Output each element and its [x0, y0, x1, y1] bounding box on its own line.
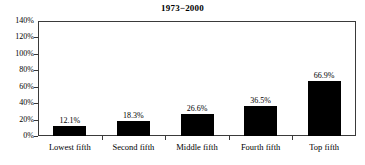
chart-title: 1973−2000 — [0, 3, 365, 14]
y-axis-tick-label: 120% — [0, 33, 34, 41]
bar-group: 26.6% — [181, 21, 214, 136]
y-axis-tick-label: 0% — [0, 132, 34, 140]
bar-group: 36.5% — [244, 21, 277, 136]
bar — [181, 114, 214, 136]
x-axis-tick-mark — [292, 136, 293, 140]
x-axis-category-label: Lowest fifth — [38, 142, 102, 153]
bar-value-label: 26.6% — [187, 104, 208, 113]
y-axis-tick-label: 140% — [0, 17, 34, 25]
y-axis-tick-labels: 0%20%40%60%80%100%120%140% — [0, 21, 34, 136]
y-axis-tick-label: 40% — [0, 99, 34, 107]
bar-value-label: 36.5% — [250, 96, 271, 105]
x-axis-category-label: Top fifth — [292, 142, 356, 153]
x-axis-category-label: Second fifth — [102, 142, 166, 153]
x-axis-category-labels: Lowest fifthSecond fifthMiddle fifthFour… — [38, 142, 356, 156]
bar-chart: 1973−2000 0%20%40%60%80%100%120%140% 12.… — [0, 0, 365, 165]
bar-group: 66.9% — [308, 21, 341, 136]
bar-group: 18.3% — [117, 21, 150, 136]
x-axis-tick-mark — [165, 136, 166, 140]
x-axis-tick-mark — [229, 136, 230, 140]
x-axis-tick-mark — [102, 136, 103, 140]
bar-value-label: 12.1% — [59, 116, 80, 125]
bars-layer: 12.1%18.3%26.6%36.5%66.9% — [38, 21, 356, 136]
y-axis-tick-label: 100% — [0, 50, 34, 58]
bar — [53, 126, 86, 136]
y-axis-tick-label: 80% — [0, 66, 34, 74]
x-axis-tick-marks — [38, 136, 356, 140]
x-axis-category-label: Fourth fifth — [229, 142, 293, 153]
x-axis-category-label: Middle fifth — [165, 142, 229, 153]
bar — [117, 121, 150, 136]
y-axis-tick-label: 20% — [0, 116, 34, 124]
bar-value-label: 66.9% — [314, 71, 335, 80]
bar-group: 12.1% — [53, 21, 86, 136]
bar — [308, 81, 341, 136]
bar-value-label: 18.3% — [123, 111, 144, 120]
y-axis-tick-label: 60% — [0, 83, 34, 91]
bar — [244, 106, 277, 136]
